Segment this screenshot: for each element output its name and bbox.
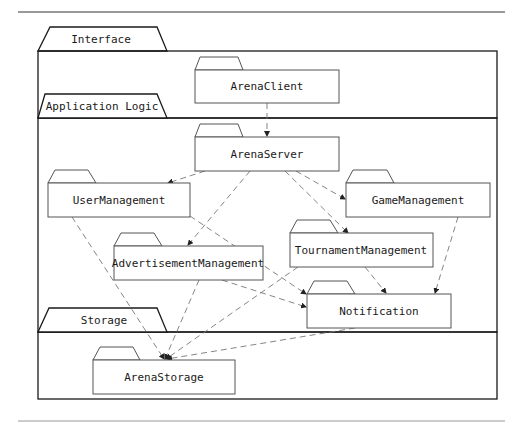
dep-server-game [296, 171, 345, 199]
package-tab [48, 170, 96, 183]
package-tab [93, 347, 140, 360]
layer-label: Interface [71, 33, 131, 46]
package-arena-client[interactable]: ArenaClient [195, 57, 339, 103]
package-label: UserManagement [73, 194, 166, 207]
package-tab [195, 57, 243, 70]
dep-server-advert [188, 171, 250, 245]
layer-label: Storage [81, 314, 127, 327]
package-label: GameManagement [372, 194, 465, 207]
dep-tournament-storage [166, 267, 298, 359]
package-label: Notification [339, 305, 418, 318]
package-label: ArenaServer [231, 148, 304, 161]
dep-server-user [168, 171, 205, 183]
package-label: TournamentManagement [295, 244, 427, 257]
package-tab [195, 124, 243, 137]
layered-package-diagram: Interface Application Logic Storage Aren… [0, 0, 527, 423]
layer-label: Application Logic [46, 100, 159, 113]
dep-tournament-notification [365, 267, 386, 293]
package-tab [114, 233, 162, 246]
package-user-management[interactable]: UserManagement [48, 170, 190, 217]
package-label: ArenaStorage [124, 371, 203, 384]
package-tab [307, 281, 355, 294]
package-label: ArenaClient [231, 80, 304, 93]
dep-game-notification [435, 217, 458, 293]
dep-advert-storage [165, 280, 199, 359]
package-game-management[interactable]: GameManagement [346, 170, 490, 217]
package-tournament-management[interactable]: TournamentManagement [290, 220, 433, 267]
dep-advert-notification [222, 280, 306, 307]
package-label: AdvertisementManagement [112, 257, 264, 270]
package-arena-storage[interactable]: ArenaStorage [93, 347, 235, 394]
package-arena-server[interactable]: ArenaServer [195, 124, 339, 171]
package-notification[interactable]: Notification [307, 281, 451, 328]
package-advertisement-management[interactable]: AdvertisementManagement [112, 233, 264, 280]
package-tab [290, 220, 338, 233]
package-tab [346, 170, 394, 183]
